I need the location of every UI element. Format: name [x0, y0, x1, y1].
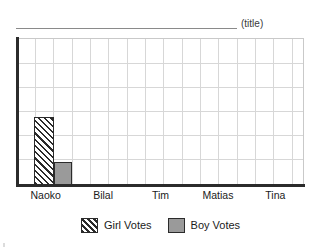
- bar-group-naoko: [17, 38, 74, 185]
- bar-group-tim: [132, 38, 189, 185]
- bar-boy-votes-naoko[interactable]: [54, 162, 72, 185]
- x-tick-label-matias: Matias: [189, 188, 246, 204]
- y-axis: [16, 37, 19, 187]
- page-title: (title): [241, 17, 263, 30]
- legend-item-girl-votes[interactable]: Girl Votes: [81, 218, 152, 233]
- x-tick-label-naoko: Naoko: [17, 188, 74, 204]
- x-axis: [16, 184, 305, 187]
- legend-item-boy-votes[interactable]: Boy Votes: [168, 218, 241, 233]
- legend-label-boy-votes: Boy Votes: [191, 218, 241, 232]
- solid-swatch-icon: [168, 218, 185, 233]
- x-tick-label-tina: Tina: [247, 188, 304, 204]
- title-write-in-line[interactable]: [16, 28, 237, 29]
- bar-group-bilal: [74, 38, 131, 185]
- x-tick-label-tim: Tim: [132, 188, 189, 204]
- x-tick-label-bilal: Bilal: [74, 188, 131, 204]
- bar-series-layer: [17, 38, 304, 185]
- bar-group-matias: [189, 38, 246, 185]
- x-axis-tick-labels: Naoko Bilal Tim Matias Tina: [17, 188, 304, 204]
- scan-artifact: [3, 243, 5, 247]
- bar-chart-figure: (title): [0, 0, 321, 252]
- bar-girl-votes-naoko[interactable]: [34, 117, 54, 185]
- chart-legend: Girl Votes Boy Votes: [0, 213, 321, 237]
- legend-label-girl-votes: Girl Votes: [104, 218, 152, 232]
- chart-title-row: (title): [16, 17, 305, 33]
- bar-group-tina: [247, 38, 304, 185]
- hatched-swatch-icon: [81, 218, 98, 233]
